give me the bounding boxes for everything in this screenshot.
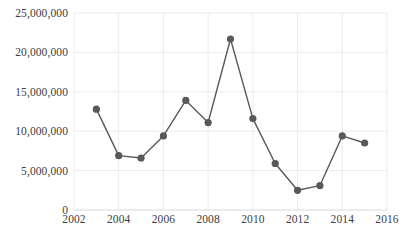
data-point-marker — [115, 152, 122, 159]
chart-canvas — [0, 0, 404, 239]
data-point-marker — [339, 132, 346, 139]
data-point-marker — [316, 182, 323, 189]
data-point-marker — [249, 115, 256, 122]
x-axis-tick-label: 2014 — [331, 213, 354, 226]
data-point-marker — [272, 160, 279, 167]
data-point-marker — [294, 187, 301, 194]
x-axis-tick-label: 2008 — [196, 213, 219, 226]
x-axis-tick-label: 2004 — [107, 213, 130, 226]
x-axis-tick-label: 2002 — [62, 213, 85, 226]
data-point-marker — [361, 139, 368, 146]
x-axis-tick-label: 2006 — [152, 213, 175, 226]
x-axis-tick-label: 2012 — [286, 213, 309, 226]
series-line — [96, 39, 364, 190]
x-axis-tick-label: 2010 — [241, 213, 264, 226]
data-point-marker — [182, 97, 189, 104]
data-point-marker — [137, 154, 144, 161]
data-point-marker — [160, 132, 167, 139]
data-point-marker — [93, 106, 100, 113]
line-chart: 25,000,000 20,000,000 15,000,000 10,000,… — [0, 0, 404, 239]
x-axis-tick-label: 2016 — [375, 213, 398, 226]
data-point-marker — [205, 119, 212, 126]
data-point-marker — [227, 35, 234, 42]
